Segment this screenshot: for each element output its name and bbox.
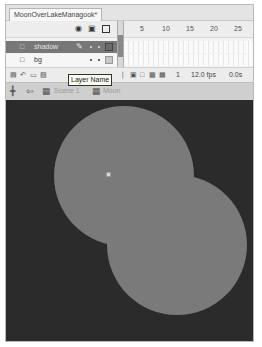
layer-name[interactable]: bg	[34, 56, 42, 64]
frame-rate[interactable]: 12.0 fps	[191, 71, 216, 79]
frame-number: 15	[186, 25, 194, 32]
back-arrow-icon[interactable]: ⇦	[26, 86, 34, 96]
elapsed-time: 0.0s	[229, 71, 242, 79]
onion-outline-icon[interactable]: □	[140, 71, 144, 79]
edit-multiple-icon[interactable]: ▩	[149, 71, 156, 79]
frame-number: 25	[234, 25, 242, 32]
scrollbar-thumb[interactable]	[118, 35, 123, 57]
lock-dot[interactable]	[98, 59, 100, 61]
tooltip: Layer Name	[68, 74, 112, 86]
modify-markers-icon[interactable]: ▦	[159, 71, 166, 79]
visibility-dot[interactable]	[90, 46, 92, 48]
outline-toggle[interactable]	[105, 56, 113, 64]
lock-dot[interactable]	[98, 46, 100, 48]
layer-column-icons: ◉ ▣	[74, 25, 119, 35]
outline-toggle[interactable]	[105, 43, 113, 51]
visibility-dot[interactable]	[90, 59, 92, 61]
layer-name[interactable]: shadow	[34, 43, 58, 51]
center-frame-icon[interactable]: ∣	[121, 71, 125, 79]
edit-bar: ╋ ⇦ ▦ Scene 1 ▦ Moon	[6, 82, 253, 101]
timeline-footer: ▤ ↶ ▭ ▧ ∣ ▣ □ ▩ ▦ 1 12.0 fps 0.0s	[6, 67, 253, 82]
scene-icon: ▦	[42, 86, 51, 96]
timeline-header: ◉ ▣ 5 10 15 20 25	[6, 21, 253, 38]
pencil-icon: ✎	[76, 42, 83, 51]
breadcrumb-symbol[interactable]: Moon	[103, 87, 121, 95]
symbol-icon: ▦	[92, 86, 101, 96]
layer-scrollbar[interactable]	[117, 21, 124, 70]
shadow-circle[interactable]	[107, 175, 247, 315]
current-frame: 1	[176, 71, 180, 79]
layer-frames-shadow[interactable]	[124, 41, 253, 53]
breadcrumb-scene[interactable]: Scene 1	[54, 87, 80, 95]
lock-icon[interactable]: ▣	[88, 25, 96, 33]
new-folder-icon[interactable]: ▭	[30, 71, 37, 79]
frame-number: 20	[210, 25, 218, 32]
timeline-panel: ◉ ▣ 5 10 15 20 25 □ shadow ✎ □	[6, 21, 253, 81]
frame-number: 10	[162, 25, 170, 32]
timeline-toggle-icon[interactable]: ╋	[10, 86, 15, 96]
registration-point	[106, 172, 111, 177]
delete-layer-icon[interactable]: ▧	[40, 71, 47, 79]
outline-square-icon[interactable]	[102, 25, 110, 33]
onion-skin-icon[interactable]: ▣	[130, 71, 137, 79]
layer-icon: □	[20, 56, 24, 64]
frame-number: 5	[140, 25, 144, 32]
stage[interactable]	[6, 100, 253, 341]
frame-ruler[interactable]: 5 10 15 20 25	[124, 21, 253, 37]
layer-row-bg[interactable]: □ bg	[6, 54, 117, 66]
eye-icon[interactable]: ◉	[74, 25, 82, 33]
layer-row-shadow[interactable]: □ shadow ✎	[6, 41, 117, 53]
layer-frames-bg[interactable]	[124, 54, 253, 66]
document-tab[interactable]: MoonOverLakeManagook*	[9, 8, 102, 21]
new-layer-icon[interactable]: ▤	[10, 71, 17, 79]
document-tab-bar: MoonOverLakeManagook*	[6, 5, 253, 21]
motion-guide-icon[interactable]: ↶	[20, 71, 26, 79]
layer-icon: □	[20, 43, 24, 51]
flash-document-window: MoonOverLakeManagook* ◉ ▣ 5 10 15 20 25 …	[5, 4, 254, 342]
